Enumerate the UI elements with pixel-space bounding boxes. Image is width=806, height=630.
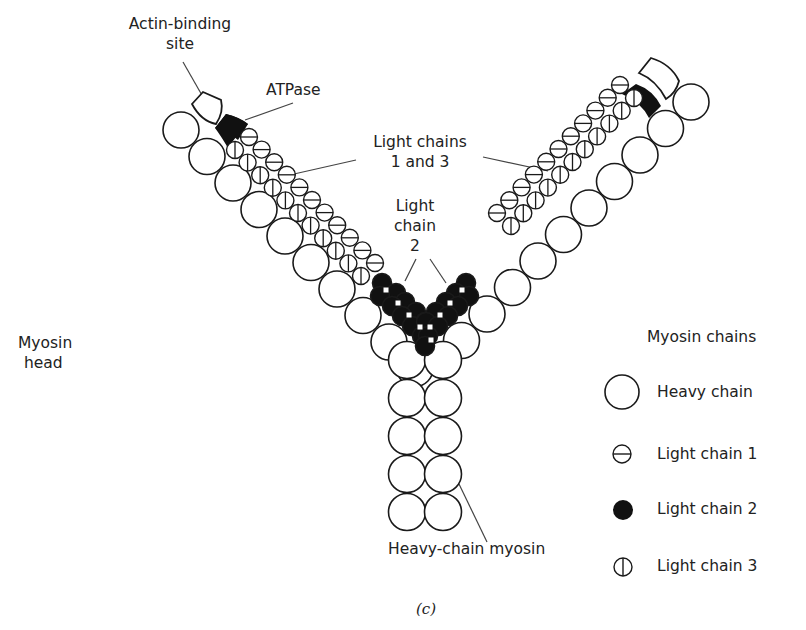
actin-binding-site-left [192, 92, 222, 124]
label-line: site [115, 34, 245, 54]
heavy-chain-circle [389, 456, 426, 493]
legend-label-light-chain-3: Light chain 3 [657, 556, 757, 576]
leader-light-chains-left [294, 160, 356, 174]
label-light-chain-2: Light chain 2 [385, 196, 445, 256]
legend-heavy-chain-icon [605, 375, 639, 409]
light-chain-2-gap [428, 325, 433, 330]
legend-light-chain-2-icon [613, 500, 633, 520]
heavy-chain-circle [520, 243, 556, 279]
heavy-chain-circle [293, 245, 329, 281]
light-chain-2-gap [429, 338, 434, 343]
figure-caption: (c) [416, 599, 436, 619]
heavy-chain-circle [622, 137, 658, 173]
label-atpase: ATPase [266, 80, 321, 100]
legend-label-heavy-chain: Heavy chain [657, 382, 753, 402]
heavy-chain-circle [163, 112, 199, 148]
light-chain-2-gap [448, 301, 453, 306]
heavy-chain-circle [189, 139, 225, 175]
legend-light-chain-3-icon [614, 558, 632, 576]
heavy-chain-circle [495, 270, 531, 306]
label-myosin-head: Myosin head [18, 333, 72, 373]
label-line: chain [385, 216, 445, 236]
legend-label-light-chain-2: Light chain 2 [657, 499, 757, 519]
light-chain-2-gap [384, 288, 389, 293]
label-line: Actin-binding [115, 14, 245, 34]
heavy-chain-circle [546, 217, 582, 253]
heavy-chain-circle [673, 84, 709, 120]
heavy-chain-circle [425, 418, 462, 455]
label-light-chains-1-and-3: Light chains 1 and 3 [360, 132, 480, 172]
label-heavy-chain-myosin: Heavy-chain myosin [388, 539, 545, 559]
label-line: 1 and 3 [360, 152, 480, 172]
leader-light-chain-2-right [430, 259, 446, 283]
heavy-chain-circle [319, 271, 355, 307]
heavy-chain-circle [389, 418, 426, 455]
label-line: Light [385, 196, 445, 216]
label-line: 2 [385, 236, 445, 256]
heavy-chain-circle [425, 380, 462, 417]
light-chain-2-gap [418, 325, 423, 330]
leader-atpase [245, 103, 293, 120]
legend-symbols [605, 375, 639, 576]
legend-title: Myosin chains [647, 327, 756, 347]
light-chain-2-gap [396, 301, 401, 306]
heavy-chain-circle [389, 494, 426, 531]
heavy-chain-circle [425, 494, 462, 531]
light-chain-2-gap [460, 288, 465, 293]
legend-light-chain-1-icon [613, 445, 631, 463]
heavy-chain-circle [425, 456, 462, 493]
myosin-structure-diagram [0, 0, 806, 630]
heavy-chain-circle [648, 111, 684, 147]
light-chain-2-gap [438, 313, 443, 318]
heavy-chain-circle [597, 164, 633, 200]
heavy-chain-circle [571, 190, 607, 226]
legend-label-light-chain-1: Light chain 1 [657, 444, 757, 464]
label-actin-binding-site: Actin-binding site [115, 14, 245, 54]
heavy-chain-circle [267, 218, 303, 254]
leader-actin-binding [183, 62, 203, 97]
label-line: head [18, 353, 72, 373]
heavy-chain-circle [389, 380, 426, 417]
light-chain-2-gap [407, 313, 412, 318]
leader-light-chain-2-left [405, 259, 416, 281]
leader-heavy-chain-myosin [459, 484, 487, 542]
label-line: Myosin [18, 333, 72, 353]
label-line: Light chains [360, 132, 480, 152]
